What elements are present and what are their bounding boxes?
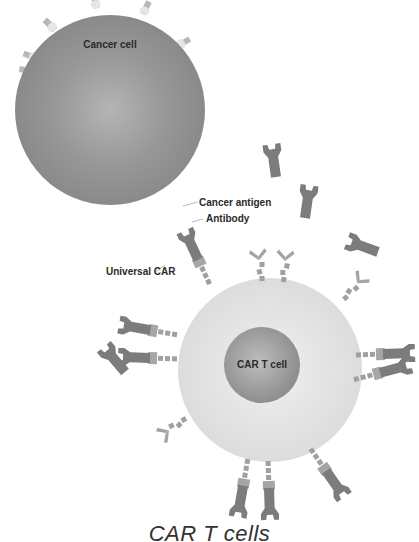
car-t-diagram (0, 0, 419, 542)
diagram-caption: CAR T cells (0, 521, 419, 542)
antibody-label: Antibody (206, 213, 249, 224)
cancer-antigen-label: Cancer antigen (199, 197, 271, 208)
universal-car-label: Universal CAR (106, 266, 175, 277)
cancer-cell-label: Cancer cell (58, 39, 162, 50)
car-t-cell-label: CAR T cell (228, 359, 296, 370)
